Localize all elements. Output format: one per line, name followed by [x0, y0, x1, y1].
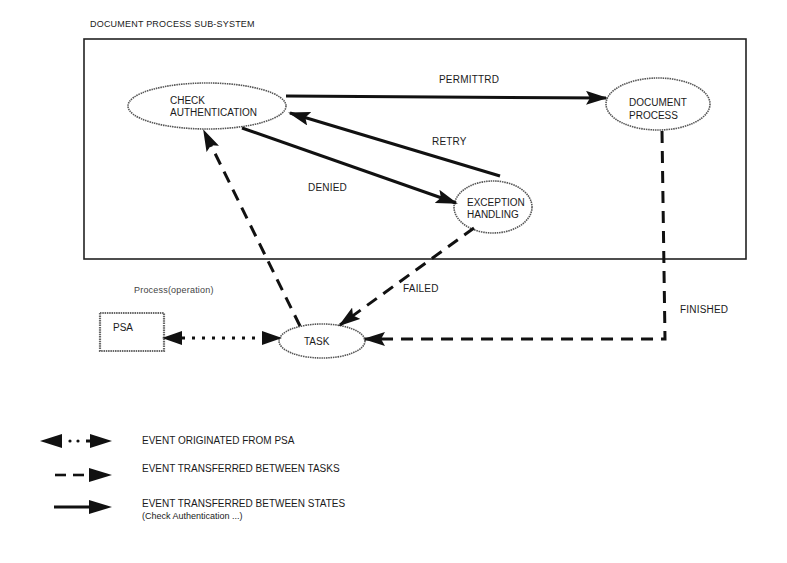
label-retry: RETRY — [432, 136, 467, 148]
check-auth-line1: CHECK — [170, 95, 205, 107]
edge-finished — [365, 131, 665, 339]
exception-line2: HANDLING — [467, 209, 519, 221]
label-denied: DENIED — [308, 182, 347, 194]
legend-text-tasks: EVENT TRANSFERRED BETWEEN TASKS — [142, 463, 340, 475]
edge-retry — [290, 113, 500, 176]
legend-symbol-dashed — [55, 468, 112, 482]
exception-line1: EXCEPTION — [467, 197, 525, 209]
legend-subtext-states: (Check Authentication ...) — [142, 510, 243, 522]
psa-label: PSA — [113, 322, 133, 334]
process-operation-label: Process(operation) — [134, 284, 214, 296]
edge-task-to-check — [204, 131, 300, 326]
edge-permitted — [286, 96, 606, 98]
node-check-authentication[interactable] — [128, 83, 286, 129]
check-auth-line2: AUTHENTICATION — [170, 107, 257, 119]
label-failed: FAILED — [403, 283, 439, 295]
doc-process-line1: DOCUMENT — [629, 97, 687, 109]
legend-symbol-solid — [54, 500, 112, 514]
edge-denied — [242, 128, 456, 203]
diagram-canvas — [0, 0, 787, 563]
doc-process-line2: PROCESS — [629, 110, 678, 122]
edge-failed — [340, 228, 474, 325]
container-title: DOCUMENT PROCESS SUB-SYSTEM — [90, 18, 255, 30]
legend-text-psa: EVENT ORIGINATED FROM PSA — [142, 435, 294, 447]
task-label: TASK — [304, 336, 329, 348]
label-permitted: PERMITTRD — [439, 74, 499, 86]
label-finished: FINISHED — [680, 304, 728, 316]
legend-symbol-dotted — [40, 434, 112, 448]
legend-text-states: EVENT TRANSFERRED BETWEEN STATES — [142, 498, 345, 510]
